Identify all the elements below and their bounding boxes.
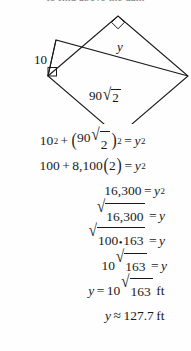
label-base-90-root-2: 90√2 bbox=[89, 88, 122, 106]
radical-sign-icon: √ bbox=[89, 223, 97, 256]
coefficient-10: 10 bbox=[101, 253, 115, 278]
unit-feet: ft bbox=[154, 303, 167, 328]
approx-value: 127.7 bbox=[123, 303, 153, 328]
equals-sign: = bbox=[148, 253, 161, 278]
equation-line: y = 10√163 ft bbox=[0, 278, 191, 303]
term-100: 100 bbox=[39, 153, 59, 178]
open-paren: ( bbox=[71, 132, 76, 148]
base-radicand: 2 bbox=[111, 89, 121, 106]
right-angle-marker-apex bbox=[112, 16, 125, 29]
radical-sqrt-163: √163 bbox=[121, 277, 152, 304]
approx-sign: ≈ bbox=[111, 303, 123, 328]
unit-feet: ft bbox=[154, 278, 167, 303]
radical-sign-icon: √ bbox=[103, 86, 111, 107]
plus-sign: + bbox=[58, 128, 71, 153]
label-hypotenuse-y: y bbox=[117, 39, 123, 55]
label-side-10: 10 bbox=[34, 52, 47, 68]
equation-line: 102 + (90√2)2 = y2 bbox=[0, 128, 191, 153]
factor-163: 163 bbox=[123, 233, 143, 248]
equals-sign: = bbox=[141, 178, 154, 203]
variable-y: y bbox=[159, 228, 165, 253]
plus-sign: + bbox=[60, 153, 73, 178]
equation-line: 16,300 = y2 bbox=[0, 178, 191, 203]
factor-2: 2 bbox=[109, 153, 116, 178]
equation-line: y ≈ 127.7 ft bbox=[0, 303, 191, 328]
term-90: 90 bbox=[77, 130, 91, 145]
variable-y: y bbox=[159, 203, 165, 228]
parenthesized-group: (90√2) bbox=[71, 125, 117, 157]
close-paren: ) bbox=[111, 132, 116, 148]
variable-y: y bbox=[161, 253, 167, 278]
radicand-163: 163 bbox=[130, 278, 153, 304]
figure-page: to find above the dam 10 y 90√2 102 + (9… bbox=[0, 0, 191, 351]
variable-y: y bbox=[134, 128, 140, 153]
radical-sign-icon: √ bbox=[121, 273, 129, 304]
equals-sign: = bbox=[122, 153, 135, 178]
group-inner: 90√2 bbox=[77, 125, 110, 157]
variable-y: y bbox=[135, 153, 141, 178]
variable-y: y bbox=[154, 178, 160, 203]
equals-sign: = bbox=[146, 228, 159, 253]
coefficient-10: 10 bbox=[107, 278, 121, 303]
radical-sqrt2: √2 bbox=[92, 130, 110, 157]
radicand-2: 2 bbox=[100, 131, 110, 157]
radicand-16300: 16,300 bbox=[105, 203, 145, 229]
equation-line: 10√163 = y bbox=[0, 253, 191, 278]
term-10: 10 bbox=[40, 128, 54, 153]
base-coefficient: 90 bbox=[89, 88, 102, 103]
equals-sign: = bbox=[122, 128, 135, 153]
close-paren: ) bbox=[116, 157, 121, 173]
term-16300: 16,300 bbox=[104, 178, 141, 203]
equals-sign: = bbox=[146, 203, 159, 228]
parenthesized-group: (2) bbox=[103, 153, 122, 178]
radical-sign-icon: √ bbox=[97, 198, 105, 229]
equals-sign: = bbox=[94, 278, 107, 303]
open-paren: ( bbox=[103, 157, 108, 173]
figure-svg bbox=[0, 4, 191, 124]
radical-sign-icon: √ bbox=[92, 126, 100, 157]
factor-100: 100 bbox=[98, 233, 118, 248]
header-text: to find above the dam bbox=[0, 0, 191, 3]
geometry-figure: 10 y 90√2 bbox=[0, 4, 191, 124]
solution-steps: 102 + (90√2)2 = y2 100 + 8,100(2) = y2 1… bbox=[0, 128, 191, 328]
radical-sqrt-16300: √16,300 bbox=[97, 202, 145, 229]
base-radical: √2 bbox=[103, 88, 121, 106]
equation-line: √100•163 = y bbox=[0, 228, 191, 253]
